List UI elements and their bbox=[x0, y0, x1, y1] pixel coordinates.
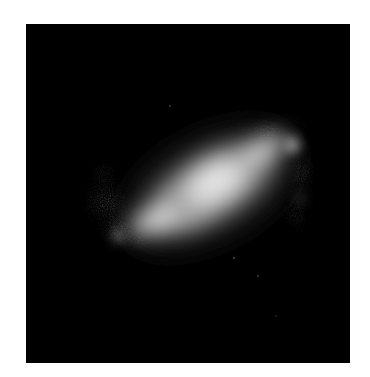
galaxy-rendering bbox=[26, 24, 350, 363]
galaxy-image: Grayscale astronomical image of a barred… bbox=[26, 24, 350, 363]
